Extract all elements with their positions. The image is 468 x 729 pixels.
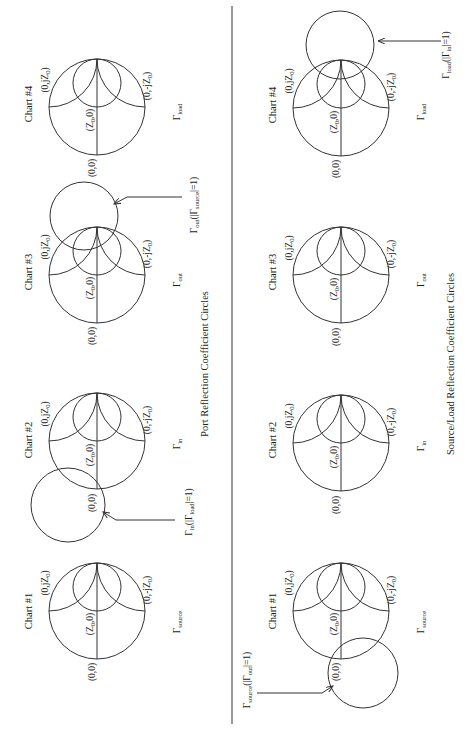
panel-port-reflection: Chart #1 (0,jZ0) (0,-jZ0) (Z0,0) (0,0) Γ… [23,59,210,681]
label-open-pos: (0,jZ0) [284,235,295,260]
label-center: (Z0,0) [329,278,340,301]
label-open-pos: (0,jZ0) [40,570,51,595]
label-short: (0,0) [87,159,98,177]
label-open-neg: (0,-jZ0) [142,72,153,100]
label-open-neg: (0,-jZ0) [142,240,153,268]
label-open-pos: (0,jZ0) [40,67,51,92]
label-short: (0,0) [331,160,342,178]
annotation-arrow [114,197,182,204]
annotation-arrow [257,686,333,693]
label-open-neg: (0,-jZ0) [386,576,397,604]
label-center: (Z0,0) [329,613,340,636]
label-short: (0,0) [87,663,98,681]
label-open-neg: (0,-jZ0) [142,406,153,434]
label-short: (0,0) [87,494,98,512]
label-center: (Z0,0) [85,613,96,636]
chart-2-sourceload: Chart #2 (0,jZ0) (0,-jZ0) (Z0,0) (0,0) Γ… [267,395,427,514]
label-center: (Z0,0) [85,109,96,132]
chart-1-port: Chart #1 (0,jZ0) (0,-jZ0) (Z0,0) (0,0) Γ… [23,563,183,681]
chart-1-sourceload: Chart #1 (0,jZ0) (0,-jZ0) (Z0,0) (0,0) Γ… [242,563,427,708]
chart-4-port: Chart #4 (0,jZ0) (0,-jZ0) (Z0,0) (0,0) Γ… [23,59,183,177]
label-open-pos: (0,jZ0) [284,403,295,428]
label-open-neg: (0,-jZ0) [386,73,397,101]
label-center: (Z0,0) [329,111,340,134]
label-short: (0,0) [331,328,342,346]
gamma-label: Γout [172,273,183,287]
label-open-pos: (0,jZ0) [40,234,51,259]
chart-title: Chart #1 [23,593,34,629]
label-open-pos: (0,jZ0) [40,401,51,426]
chart-2-port: Chart #2 (0,jZ0) (0,-jZ0) (Z0,0) (0,0) Γ… [23,393,195,542]
chart-title: Chart #3 [267,254,278,290]
gamma-label: Γload [416,103,427,120]
label-open-pos: (0,jZ0) [284,68,295,93]
panel-source-load-reflection: Chart #1 (0,jZ0) (0,-jZ0) (Z0,0) (0,0) Γ… [242,11,456,708]
chart-3-sourceload: Chart #3 (0,jZ0) (0,-jZ0) (Z0,0) (0,0) Γ… [267,227,427,346]
chart-title: Chart #1 [267,593,278,629]
label-open-pos: (0,jZ0) [284,570,295,595]
label-short: (0,0) [87,327,98,345]
panel-title: Source/Load Reflection Coefficient Circl… [445,273,456,455]
chart-title: Chart #3 [23,254,34,290]
label-open-neg: (0,-jZ0) [386,240,397,268]
gamma-label: Γin [416,440,427,451]
gamma-label: Γload [172,103,183,120]
chart-4-sourceload: Chart #4 (0,jZ0) (0,-jZ0) (Z0,0) (0,0) Γ… [267,11,452,178]
label-short: (0,0) [331,663,342,681]
chart-title: Chart #2 [23,422,34,458]
chart-3-port: Chart #3 (0,jZ0) (0,-jZ0) (Z0,0) (0,0) Γ… [23,177,200,345]
annotation-label: Γload(|Γin|=1) [441,31,452,79]
chart-title: Chart #4 [267,86,278,123]
annotation-label: Γout(|Γsource|=1) [189,177,200,234]
smith-chart-glyph [49,563,145,659]
chart-title: Chart #2 [267,422,278,458]
label-open-neg: (0,-jZ0) [142,576,153,604]
gamma-label: Γsource [416,611,427,634]
label-open-neg: (0,-jZ0) [386,408,397,436]
gamma-label: Γout [416,273,427,287]
gamma-label: Γsource [172,611,183,634]
gamma-label: Γin [172,438,183,449]
annotation-label: Γin(|Γload|=1) [184,488,195,536]
panel-title: Port Reflection Coefficient Circles [199,291,210,437]
label-center: (Z0,0) [329,446,340,469]
label-center: (Z0,0) [85,444,96,467]
reflection-coefficient-diagram: Chart #1 (0,jZ0) (0,-jZ0) (Z0,0) (0,0) Γ… [0,0,468,729]
label-center: (Z0,0) [85,277,96,300]
stability-circle [50,182,118,250]
label-short: (0,0) [331,496,342,514]
chart-title: Chart #4 [23,85,34,122]
annotation-label: Γsource(|Γout|=1) [242,652,253,709]
annotation-arrow [103,512,175,520]
